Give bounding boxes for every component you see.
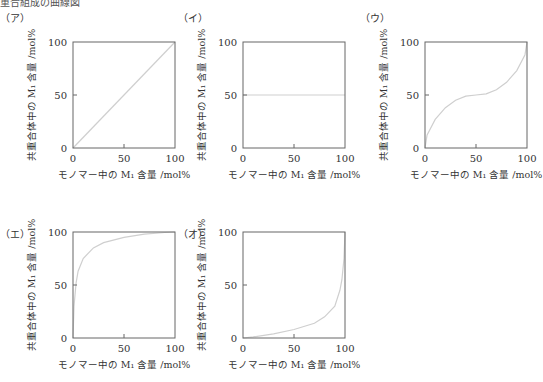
chart-svg: 050100050100モノマー中の M₁ 含量 /mol%共重合体中の M₁ … bbox=[0, 0, 180, 190]
y-tick-label: 0 bbox=[61, 333, 67, 344]
chart-panel-a: （ア）050100050100モノマー中の M₁ 含量 /mol%共重合体中の … bbox=[0, 0, 180, 190]
x-tick-label: 50 bbox=[118, 153, 131, 164]
x-axis-label: モノマー中の M₁ 含量 /mol% bbox=[228, 169, 361, 180]
x-tick-label: 0 bbox=[422, 153, 428, 164]
x-tick-label: 50 bbox=[118, 343, 131, 354]
y-tick-label: 0 bbox=[61, 143, 67, 154]
y-axis-label: 共重合体中の M₁ 含量 /mol% bbox=[378, 29, 389, 162]
y-tick-label: 0 bbox=[231, 333, 237, 344]
plot-frame bbox=[73, 232, 175, 338]
chart-panel-o: （オ）050100050100モノマー中の M₁ 含量 /mol%共重合体中の … bbox=[170, 190, 350, 380]
x-axis-label: モノマー中の M₁ 含量 /mol% bbox=[228, 359, 361, 370]
chart-svg: 050100050100モノマー中の M₁ 含量 /mol%共重合体中の M₁ … bbox=[352, 0, 532, 190]
y-tick-label: 100 bbox=[48, 227, 67, 238]
y-axis-label: 共重合体中の M₁ 含量 /mol% bbox=[196, 219, 207, 352]
x-tick-label: 50 bbox=[288, 153, 301, 164]
data-curve bbox=[425, 42, 527, 148]
y-axis-label: 共重合体中の M₁ 含量 /mol% bbox=[26, 219, 37, 352]
y-tick-label: 100 bbox=[400, 37, 419, 48]
y-axis-label: 共重合体中の M₁ 含量 /mol% bbox=[196, 29, 207, 162]
x-tick-label: 100 bbox=[517, 153, 536, 164]
x-tick-label: 0 bbox=[70, 343, 76, 354]
data-curve bbox=[243, 232, 345, 338]
x-tick-label: 0 bbox=[240, 343, 246, 354]
x-tick-label: 50 bbox=[288, 343, 301, 354]
x-tick-label: 100 bbox=[335, 343, 354, 354]
y-tick-label: 100 bbox=[218, 227, 237, 238]
x-tick-label: 0 bbox=[70, 153, 76, 164]
y-axis-label: 共重合体中の M₁ 含量 /mol% bbox=[26, 29, 37, 162]
y-tick-label: 50 bbox=[224, 90, 237, 101]
plot-frame bbox=[243, 232, 345, 338]
data-curve bbox=[73, 232, 175, 338]
x-axis-label: モノマー中の M₁ 含量 /mol% bbox=[410, 169, 543, 180]
y-tick-label: 50 bbox=[224, 280, 237, 291]
x-tick-label: 50 bbox=[470, 153, 483, 164]
y-tick-label: 0 bbox=[231, 143, 237, 154]
y-tick-label: 100 bbox=[48, 37, 67, 48]
y-tick-label: 50 bbox=[406, 90, 419, 101]
chart-panel-e: （エ）050100050100モノマー中の M₁ 含量 /mol%共重合体中の … bbox=[0, 190, 180, 380]
y-tick-label: 50 bbox=[54, 90, 67, 101]
chart-svg: 050100050100モノマー中の M₁ 含量 /mol%共重合体中の M₁ … bbox=[170, 190, 350, 380]
y-tick-label: 0 bbox=[413, 143, 419, 154]
chart-panel-u: （ウ）050100050100モノマー中の M₁ 含量 /mol%共重合体中の … bbox=[352, 0, 532, 190]
x-tick-label: 0 bbox=[240, 153, 246, 164]
chart-panel-i: （イ）050100050100モノマー中の M₁ 含量 /mol%共重合体中の … bbox=[170, 0, 350, 190]
chart-svg: 050100050100モノマー中の M₁ 含量 /mol%共重合体中の M₁ … bbox=[0, 190, 180, 380]
data-curve bbox=[73, 42, 175, 148]
chart-svg: 050100050100モノマー中の M₁ 含量 /mol%共重合体中の M₁ … bbox=[170, 0, 350, 190]
y-tick-label: 50 bbox=[54, 280, 67, 291]
y-tick-label: 100 bbox=[218, 37, 237, 48]
